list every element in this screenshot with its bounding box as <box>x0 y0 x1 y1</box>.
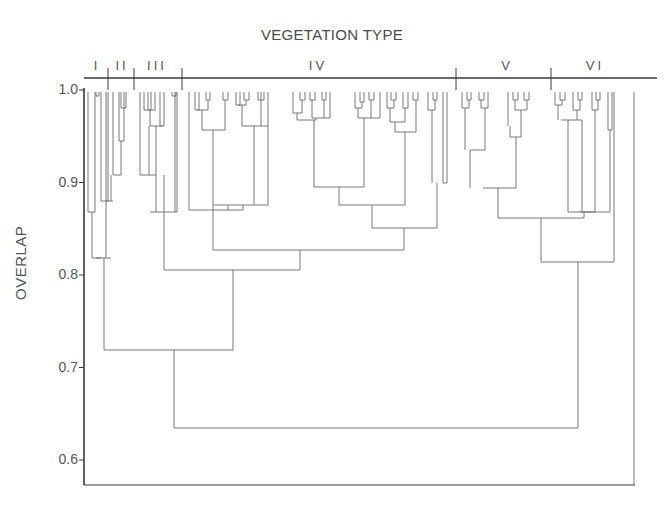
group-boundaries <box>108 68 551 90</box>
dendrogram-links <box>88 92 634 485</box>
axes <box>84 78 657 485</box>
dendrogram <box>0 0 668 513</box>
